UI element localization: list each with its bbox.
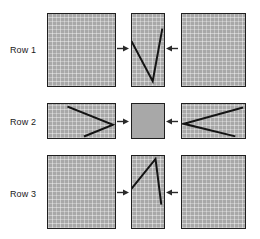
row-label-3: Row 3 — [10, 189, 36, 199]
row2-left-panel-lines — [48, 104, 115, 138]
row2-arrow-right-icon — [117, 117, 129, 126]
row3-middle-panel — [131, 155, 165, 229]
row3-arrow-left-icon — [166, 188, 178, 197]
row2-left-panel — [47, 103, 116, 139]
row3-middle-panel-polyline-0 — [132, 159, 161, 204]
row2-right-panel-lines — [182, 104, 245, 138]
row-label-1: Row 1 — [10, 45, 36, 55]
row1-left-panel — [47, 13, 116, 87]
row2-right-panel-polyline-0 — [184, 108, 242, 136]
row1-middle-panel-polyline-0 — [132, 30, 162, 82]
row3-middle-panel-lines — [132, 156, 164, 228]
row2-right-panel — [181, 103, 246, 139]
figure-canvas: Row 1Row 2Row 3 — [0, 0, 260, 239]
row3-arrow-right-icon — [117, 188, 129, 197]
row2-left-panel-polyline-0 — [68, 107, 113, 136]
row1-arrow-left-icon — [166, 44, 178, 53]
row1-middle-panel — [131, 13, 165, 87]
row3-right-panel — [181, 155, 246, 229]
row1-arrow-right-icon — [117, 44, 129, 53]
row2-arrow-left-icon — [166, 117, 178, 126]
row1-right-panel — [181, 13, 246, 87]
row3-left-panel — [47, 155, 116, 229]
row2-middle-panel — [131, 103, 165, 139]
row-label-2: Row 2 — [10, 117, 36, 127]
row1-middle-panel-lines — [132, 14, 164, 86]
